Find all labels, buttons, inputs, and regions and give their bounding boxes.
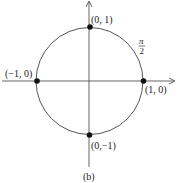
angle-denominator: 2	[140, 46, 145, 56]
point-right	[141, 78, 147, 84]
point-bottom	[87, 132, 93, 138]
label-top: (0, 1)	[91, 14, 113, 26]
point-top	[87, 24, 93, 30]
unit-circle-diagram: (0, 1) (1, 0) (0,−1) (−1, 0) π 2 (b)	[0, 0, 180, 183]
label-left: (−1, 0)	[5, 68, 32, 80]
label-bottom: (0,−1)	[91, 140, 116, 152]
caption: (b)	[83, 171, 95, 183]
angle-numerator: π	[139, 36, 144, 46]
point-left	[34, 78, 40, 84]
label-right: (1, 0)	[145, 84, 167, 96]
